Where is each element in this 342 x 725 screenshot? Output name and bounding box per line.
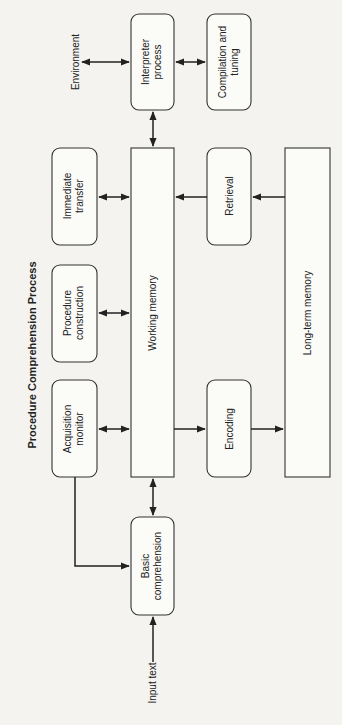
procedure-label-2: construction: [74, 286, 85, 340]
immediate-label-1: Immediate: [62, 172, 73, 219]
diagram-title: Procedure Comprehension Process: [26, 261, 38, 448]
compilation-label-2: tuning: [229, 48, 240, 75]
interpreter-label-1: Interpreter: [140, 38, 151, 85]
edge-acquisition-basic: [75, 477, 129, 566]
immediate-label-2: transfer: [74, 178, 85, 213]
environment-label: Environment: [70, 34, 81, 90]
input-text-label: Input text: [147, 662, 158, 703]
basic-label-2: comprehension: [152, 532, 163, 600]
retrieval-label: Retrieval: [224, 176, 235, 215]
procedure-label-1: Procedure: [62, 289, 73, 336]
acquisition-label-2: monitor: [74, 412, 85, 446]
acquisition-label-1: Acquisition: [62, 405, 73, 453]
basic-label-1: Basic: [140, 554, 151, 578]
interpreter-label-2: process: [152, 44, 163, 79]
encoding-label: Encoding: [224, 408, 235, 450]
compilation-label-1: Compilation and: [217, 26, 228, 98]
long-term-memory-label: Long-term memory: [302, 271, 313, 355]
diagram-canvas: Environment Interpreter process Compilat…: [0, 0, 342, 725]
working-memory-label: Working memory: [147, 275, 158, 350]
